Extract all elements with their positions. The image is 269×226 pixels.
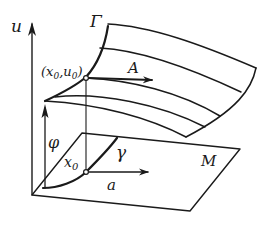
point-x0-u0 xyxy=(84,76,89,81)
vector-A xyxy=(89,78,152,80)
label-u-axis: u xyxy=(11,16,22,36)
label-point-x0-u0: (x0,u0) xyxy=(41,64,82,81)
diagram-canvas: u Γ (x0,u0) A φ x0 γ a M xyxy=(0,0,269,226)
u-axis xyxy=(28,22,36,195)
label-surface-gamma: Γ xyxy=(89,11,103,31)
label-x0: x0 xyxy=(64,154,79,172)
label-plane-m: M xyxy=(200,152,217,170)
label-vector-A: A xyxy=(126,59,139,77)
label-phi: φ xyxy=(48,133,60,152)
label-vector-a: a xyxy=(107,176,116,194)
label-gamma: γ xyxy=(116,142,127,162)
point-x0 xyxy=(84,170,89,175)
